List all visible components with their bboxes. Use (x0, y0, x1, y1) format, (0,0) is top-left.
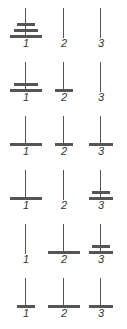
state-row: 123 (0, 272, 127, 322)
peg-label: 1 (8, 91, 44, 103)
peg-label: 3 (83, 145, 119, 157)
disk-M (14, 83, 38, 86)
peg-label: 1 (8, 307, 44, 319)
peg-1: 1 (8, 110, 44, 160)
pole (63, 62, 64, 92)
peg-2: 2 (46, 2, 82, 52)
peg-3: 3 (83, 164, 119, 214)
disk-S (92, 191, 110, 194)
peg-1: 1 (8, 56, 44, 106)
pole (100, 116, 101, 146)
peg-2: 2 (46, 164, 82, 214)
state-row: 123 (0, 56, 127, 106)
peg-label: 2 (46, 199, 82, 211)
peg-2: 2 (46, 272, 82, 322)
peg-3: 3 (83, 2, 119, 52)
pole (100, 224, 101, 254)
peg-label: 1 (8, 145, 44, 157)
pole (25, 62, 26, 92)
peg-3: 3 (83, 272, 119, 322)
peg-3: 3 (83, 56, 119, 106)
peg-label: 3 (83, 253, 119, 265)
peg-2: 2 (46, 218, 82, 268)
pole (25, 224, 26, 254)
pole (63, 8, 64, 38)
disk-M (14, 29, 38, 32)
pole (100, 8, 101, 38)
pole (63, 224, 64, 254)
pole (100, 62, 101, 92)
peg-label: 1 (8, 37, 44, 49)
peg-label: 2 (46, 91, 82, 103)
state-row: 123 (0, 218, 127, 268)
pole (25, 278, 26, 308)
state-row: 123 (0, 110, 127, 160)
peg-1: 1 (8, 272, 44, 322)
pole (100, 278, 101, 308)
peg-1: 1 (8, 164, 44, 214)
peg-label: 3 (83, 199, 119, 211)
peg-label: 2 (46, 253, 82, 265)
peg-label: 3 (83, 307, 119, 319)
pole (25, 170, 26, 200)
peg-label: 3 (83, 91, 119, 103)
peg-1: 1 (8, 2, 44, 52)
peg-label: 2 (46, 145, 82, 157)
peg-3: 3 (83, 110, 119, 160)
peg-1: 1 (8, 218, 44, 268)
disk-S (92, 245, 110, 248)
peg-label: 1 (8, 199, 44, 211)
state-row: 123 (0, 2, 127, 52)
peg-label: 3 (83, 37, 119, 49)
pole (100, 170, 101, 200)
peg-2: 2 (46, 110, 82, 160)
pole (25, 116, 26, 146)
peg-2: 2 (46, 56, 82, 106)
peg-3: 3 (83, 218, 119, 268)
pole (63, 116, 64, 146)
peg-label: 2 (46, 307, 82, 319)
state-row: 123 (0, 164, 127, 214)
disk-S (17, 23, 35, 26)
peg-label: 1 (8, 253, 44, 265)
peg-label: 2 (46, 37, 82, 49)
pole (63, 170, 64, 200)
pole (63, 278, 64, 308)
